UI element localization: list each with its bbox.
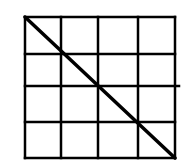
diagonal-line xyxy=(25,17,175,158)
grid-diagram xyxy=(0,0,184,168)
